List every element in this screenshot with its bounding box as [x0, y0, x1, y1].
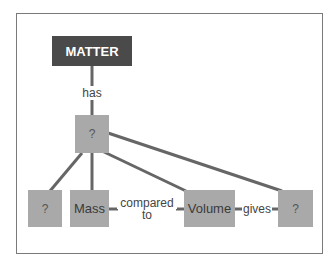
node-mass: Mass — [70, 190, 109, 227]
link-label-compared-to: compared to — [117, 197, 177, 221]
link-label-has: has — [78, 87, 106, 99]
node-volume: Volume — [184, 190, 235, 227]
link-label-to: to — [117, 209, 177, 221]
node-result-unknown: ? — [278, 190, 313, 227]
node-property-unknown: ? — [75, 115, 109, 153]
node-left-unknown: ? — [28, 190, 62, 227]
node-matter: MATTER — [52, 36, 132, 66]
link-label-gives: gives — [242, 203, 272, 215]
